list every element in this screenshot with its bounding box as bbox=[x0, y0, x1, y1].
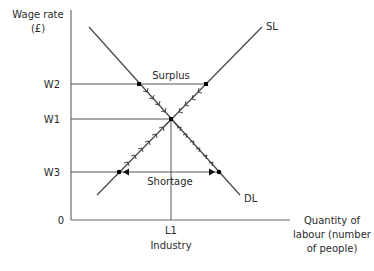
shortage-arrowhead-left bbox=[123, 169, 129, 176]
l1-label: L1 bbox=[165, 225, 177, 236]
point-demand-w2 bbox=[137, 82, 141, 86]
x-axis-label-line1: Quantity of bbox=[304, 215, 361, 226]
x-axis-label-line2: labour (number bbox=[293, 229, 372, 240]
shortage-label: Shortage bbox=[147, 176, 192, 187]
point-demand-w3 bbox=[217, 170, 222, 175]
supply-label: SL bbox=[266, 21, 278, 32]
point-equilibrium bbox=[169, 117, 173, 121]
shortage-arrowhead-right bbox=[209, 169, 215, 176]
w2-label: W2 bbox=[44, 79, 60, 90]
industry-caption: Industry bbox=[150, 240, 191, 251]
x-axis-label-line3: of people) bbox=[307, 243, 358, 254]
demand-curve bbox=[89, 27, 240, 195]
origin-label: 0 bbox=[58, 215, 64, 226]
w3-label: W3 bbox=[44, 167, 60, 178]
surplus-label: Surplus bbox=[152, 70, 189, 81]
y-axis-label-line1: Wage rate bbox=[12, 9, 63, 20]
arrows-demand-lower bbox=[177, 127, 213, 166]
point-supply-w2 bbox=[204, 82, 208, 86]
labour-market-diagram: Wage rate (£) W2 W1 W3 0 SL DL Surplus S… bbox=[0, 0, 374, 271]
w1-label: W1 bbox=[44, 114, 60, 125]
point-supply-w3 bbox=[117, 170, 122, 175]
demand-label: DL bbox=[244, 193, 258, 204]
y-axis-label-line2: (£) bbox=[31, 23, 45, 34]
